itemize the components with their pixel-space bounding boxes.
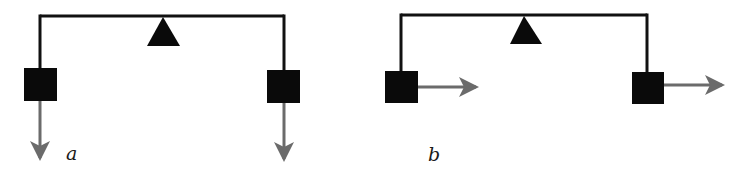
mass-block [632,72,664,104]
balance-diagram: a b [0,0,755,171]
panel-a: a [24,15,300,165]
panel-label: b [428,143,440,165]
fulcrum-triangle-icon [510,16,542,44]
mass-block [24,68,57,101]
mass-block [385,71,418,103]
panel-b: b [385,14,722,166]
mass-block [267,70,300,103]
fulcrum-triangle-icon [147,17,180,46]
panel-label: a [66,142,77,164]
